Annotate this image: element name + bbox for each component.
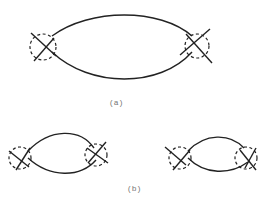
panel-b-left-vertex-circles xyxy=(9,144,107,169)
vertex-circle-left xyxy=(30,34,56,60)
panel-a-loop xyxy=(31,15,212,79)
panel-b-right-vertex-circles xyxy=(169,147,257,169)
panel-a-label: (a) xyxy=(109,98,123,107)
figure: (a) (b) xyxy=(0,0,269,202)
panel-b-label: (b) xyxy=(127,184,141,193)
diagram-svg xyxy=(0,0,269,202)
panel-b-left-loop xyxy=(9,133,108,173)
panel-b-right-loop xyxy=(165,137,256,171)
